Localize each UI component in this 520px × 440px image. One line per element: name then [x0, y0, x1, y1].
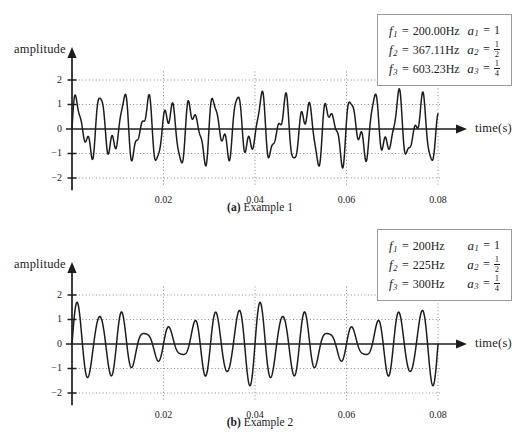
legend-amplitude-entry: a1=1 — [467, 23, 500, 39]
amplitude-fraction: 14 — [494, 274, 500, 292]
equals-sign: = — [483, 42, 490, 57]
legend-amplitude-entry: a2=12 — [467, 40, 500, 58]
y-tick-label: −1 — [30, 147, 62, 158]
amplitude-symbol: a — [467, 276, 474, 292]
caption-tag: (a) — [227, 201, 240, 213]
amplitude-value: 1 — [494, 23, 500, 38]
amplitude-subscript: 1 — [474, 28, 478, 38]
fraction-denominator: 2 — [494, 49, 500, 59]
amplitude-subscript: 3 — [474, 66, 478, 76]
fraction-numerator: 1 — [494, 274, 500, 283]
frequency-subscript: 3 — [393, 282, 397, 292]
frequency-symbol: f — [389, 238, 393, 254]
figure-caption-example-1: (a) Example 1 — [0, 201, 520, 213]
figure-caption-example-2: (b) Example 2 — [0, 416, 520, 428]
frequency-value: 225Hz — [413, 258, 445, 273]
frequency-symbol: f — [389, 42, 393, 58]
amplitude-symbol: a — [467, 42, 474, 58]
legend-amplitude-entry: a2=12 — [467, 255, 500, 273]
y-tick-label: −1 — [30, 362, 62, 373]
y-tick-label: −2 — [30, 172, 62, 183]
fraction-numerator: 1 — [494, 40, 500, 49]
y-tick-label: 0 — [30, 338, 62, 349]
legend-row: f3=603.23Hza3=14 — [389, 59, 500, 78]
equals-sign: = — [402, 277, 409, 292]
frequency-subscript: 2 — [393, 48, 397, 58]
frequency-subscript: 2 — [393, 263, 397, 273]
frequency-value: 367.11Hz — [413, 43, 460, 58]
equals-sign: = — [402, 258, 409, 273]
frequency-subscript: 1 — [393, 244, 397, 254]
fraction-denominator: 4 — [494, 283, 500, 293]
legend-box-example-1: f1=200.00Hza1=1f2=367.11Hza2=12f3=603.23… — [377, 14, 512, 86]
frequency-symbol: f — [389, 23, 393, 39]
amplitude-subscript: 1 — [474, 243, 478, 253]
frequency-value: 200Hz — [413, 239, 445, 254]
amplitude-symbol: a — [467, 257, 474, 273]
amplitude-fraction: 12 — [494, 40, 500, 58]
frequency-subscript: 3 — [393, 67, 397, 77]
fraction-denominator: 4 — [494, 68, 500, 78]
legend-row: f1=200Hza1=1 — [389, 236, 500, 255]
equals-sign: = — [483, 257, 490, 272]
fraction-denominator: 2 — [494, 264, 500, 274]
legend-box-example-2: f1=200Hza1=1f2=225Hza2=12f3=300Hza3=14 — [377, 229, 512, 301]
legend-frequency-entry: f2=225Hz — [389, 257, 467, 273]
equals-sign: = — [483, 276, 490, 291]
legend-row: f1=200.00Hza1=1 — [389, 21, 500, 40]
x-axis-label: time(s) — [475, 336, 512, 351]
amplitude-subscript: 2 — [474, 47, 478, 57]
frequency-value: 300Hz — [413, 277, 445, 292]
equals-sign: = — [483, 61, 490, 76]
legend-row: f2=367.11Hza2=12 — [389, 40, 500, 59]
frequency-subscript: 1 — [393, 29, 397, 39]
amplitude-subscript: 2 — [474, 262, 478, 272]
amplitude-symbol: a — [467, 61, 474, 77]
x-axis-label: time(s) — [475, 121, 512, 136]
y-tick-label: 2 — [30, 289, 62, 300]
legend-frequency-entry: f3=603.23Hz — [389, 61, 467, 77]
legend-amplitude-entry: a3=14 — [467, 274, 500, 292]
legend-frequency-entry: f1=200Hz — [389, 238, 467, 254]
y-tick-label: 1 — [30, 98, 62, 109]
legend-row: f3=300Hza3=14 — [389, 274, 500, 293]
legend-amplitude-entry: a1=1 — [467, 238, 500, 254]
legend-frequency-entry: f2=367.11Hz — [389, 42, 467, 58]
y-tick-label: −2 — [30, 387, 62, 398]
equals-sign: = — [402, 43, 409, 58]
legend-amplitude-entry: a3=14 — [467, 59, 500, 77]
caption-tag: (b) — [227, 416, 241, 428]
legend-frequency-entry: f1=200.00Hz — [389, 23, 467, 39]
amplitude-fraction: 14 — [494, 59, 500, 77]
y-axis-label: amplitude — [14, 42, 66, 57]
frequency-symbol: f — [389, 257, 393, 273]
amplitude-symbol: a — [467, 238, 474, 254]
equals-sign: = — [402, 239, 409, 254]
equals-sign: = — [402, 62, 409, 77]
legend-row: f2=225Hza2=12 — [389, 255, 500, 274]
caption-text: Example 2 — [244, 416, 294, 428]
fraction-numerator: 1 — [494, 255, 500, 264]
amplitude-value: 1 — [494, 238, 500, 253]
y-tick-label: 2 — [30, 74, 62, 85]
equals-sign: = — [402, 24, 409, 39]
equals-sign: = — [483, 238, 490, 253]
fraction-numerator: 1 — [494, 59, 500, 68]
frequency-value: 603.23Hz — [413, 62, 460, 77]
y-tick-label: 0 — [30, 123, 62, 134]
figure-example-1: amplitude time(s) 210−1−20.020.040.060.0… — [0, 0, 520, 225]
amplitude-symbol: a — [467, 23, 474, 39]
y-tick-label: 1 — [30, 313, 62, 324]
caption-text: Example 1 — [243, 201, 293, 213]
legend-frequency-entry: f3=300Hz — [389, 276, 467, 292]
amplitude-fraction: 12 — [494, 255, 500, 273]
amplitude-subscript: 3 — [474, 281, 478, 291]
figure-example-2: amplitude time(s) 210−1−20.020.040.060.0… — [0, 215, 520, 440]
frequency-value: 200.00Hz — [413, 24, 460, 39]
y-axis-label: amplitude — [14, 257, 66, 272]
equals-sign: = — [483, 23, 490, 38]
